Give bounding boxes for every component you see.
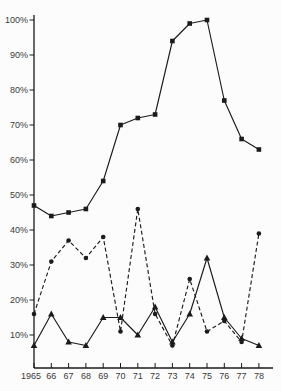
x-tick-label: 75: [202, 371, 212, 381]
square-marker: [84, 207, 89, 212]
square-marker: [136, 116, 141, 121]
triangle-marker: [204, 255, 211, 261]
y-tick-label: 70%: [10, 120, 28, 130]
x-tick-label: 68: [81, 371, 91, 381]
circle-marker: [205, 329, 210, 334]
circle-marker: [49, 259, 54, 264]
square-marker: [170, 39, 175, 44]
y-tick-label: 60%: [10, 155, 28, 165]
x-tick-label: 72: [150, 371, 160, 381]
x-tick-label: 70: [115, 371, 125, 381]
square-marker: [187, 21, 192, 26]
x-tick-label: 74: [185, 371, 195, 381]
square-marker: [239, 137, 244, 142]
triangle-marker: [186, 311, 193, 317]
x-tick-label: 78: [254, 371, 264, 381]
y-tick-label: 40%: [10, 225, 28, 235]
square-marker: [118, 123, 123, 128]
y-tick-label: 30%: [10, 260, 28, 270]
series-triangles: [31, 255, 263, 349]
circle-marker: [101, 235, 106, 240]
chart-figure: 10%20%30%40%50%60%70%80%90%100%196566676…: [0, 0, 281, 391]
x-tick-label: 1965: [21, 371, 41, 381]
circle-marker: [257, 231, 262, 236]
square-marker: [205, 18, 210, 23]
triangle-marker: [152, 304, 159, 310]
x-tick-label: 71: [133, 371, 143, 381]
triangle-marker: [31, 342, 38, 348]
triangle-marker: [221, 314, 228, 320]
triangle-marker: [65, 339, 72, 345]
y-tick-label: 100%: [5, 15, 28, 25]
square-marker: [257, 147, 262, 152]
x-tick-label: 66: [46, 371, 56, 381]
x-tick-label: 77: [237, 371, 247, 381]
circle-marker: [84, 256, 89, 261]
x-tick-label: 76: [219, 371, 229, 381]
y-tick-label: 90%: [10, 50, 28, 60]
x-tick-label: 67: [64, 371, 74, 381]
circle-marker: [32, 312, 37, 317]
y-tick-label: 20%: [10, 295, 28, 305]
circle-marker: [136, 207, 141, 212]
circle-marker: [118, 329, 123, 334]
triangle-marker: [48, 311, 55, 317]
square-marker: [49, 214, 54, 219]
series-line-circles: [34, 209, 259, 346]
square-marker: [153, 112, 158, 117]
y-tick-label: 10%: [10, 330, 28, 340]
series-squares: [32, 18, 262, 219]
y-tick-label: 50%: [10, 190, 28, 200]
circle-marker: [153, 312, 158, 317]
circle-marker: [187, 277, 192, 282]
square-marker: [66, 210, 71, 215]
circle-marker: [66, 238, 71, 243]
square-marker: [32, 203, 37, 208]
y-tick-label: 80%: [10, 85, 28, 95]
square-marker: [222, 98, 227, 103]
series-line-triangles: [34, 258, 259, 346]
x-tick-label: 69: [98, 371, 108, 381]
series-line-squares: [34, 20, 259, 216]
series-circles: [32, 207, 262, 348]
line-chart: 10%20%30%40%50%60%70%80%90%100%196566676…: [0, 0, 281, 391]
x-tick-label: 73: [167, 371, 177, 381]
square-marker: [101, 179, 106, 184]
